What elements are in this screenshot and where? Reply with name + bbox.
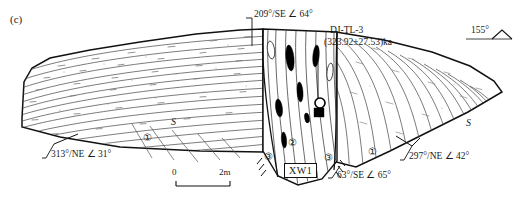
panel-label: (c) — [10, 14, 22, 25]
tl-sample-point-marker — [315, 98, 325, 108]
trench-label-xw1: XW1 — [284, 163, 317, 178]
sample-id-label: DJ-TL-3 — [330, 26, 363, 36]
shear-label-left: S — [171, 117, 176, 127]
unit-marker-1-left: ① — [143, 133, 152, 143]
scalebar-graphic — [176, 181, 230, 186]
right-limb-attitude-label: 297°/NE ∠ 42° — [409, 152, 469, 162]
fault-top-attitude-label: 209°/SE ∠ 64° — [254, 10, 313, 20]
fault-base-attitude-label: 63°/SE ∠ 65° — [337, 171, 391, 181]
unit-marker-3-left: ③ — [264, 152, 273, 162]
scalebar-max-label: 2m — [219, 168, 231, 177]
section-bearing-label: 155° — [471, 26, 489, 36]
sample-age-label: (323.92±27.53)ka — [324, 38, 392, 48]
cross-section-drawing — [0, 0, 520, 201]
left-limb-attitude-label: 313°/NE ∠ 31° — [51, 150, 111, 160]
scalebar-min-label: 0 — [172, 168, 177, 177]
shear-label-right: S — [466, 118, 471, 128]
unit-marker-3-right: ③ — [324, 153, 333, 163]
geological-cross-section-figure: (c) 209°/SE ∠ 64° DJ-TL-3 (323.92±27.53)… — [0, 0, 520, 201]
unit-marker-2: ② — [288, 138, 297, 148]
unit-marker-1-right: ① — [368, 147, 377, 157]
